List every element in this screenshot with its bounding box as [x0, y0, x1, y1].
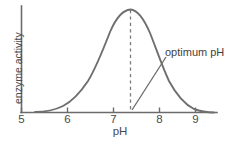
- y-axis-title: enzyme activity: [12, 32, 24, 104]
- x-tick-label-5: 5: [12, 113, 32, 126]
- x-axis-title: pH: [98, 125, 142, 137]
- x-tick-label-8: 8: [150, 113, 170, 126]
- optimum-ph-annotation-label: optimum pH: [165, 46, 224, 58]
- enzyme-activity-ph-chart: 5 6 7 8 9 pH enzyme activity optimum pH: [0, 0, 238, 142]
- optimum-ph-leader-line: [132, 57, 166, 110]
- enzyme-activity-curve: [35, 10, 214, 113]
- x-tick-label-6: 6: [58, 113, 78, 126]
- x-tick-label-9: 9: [186, 113, 206, 126]
